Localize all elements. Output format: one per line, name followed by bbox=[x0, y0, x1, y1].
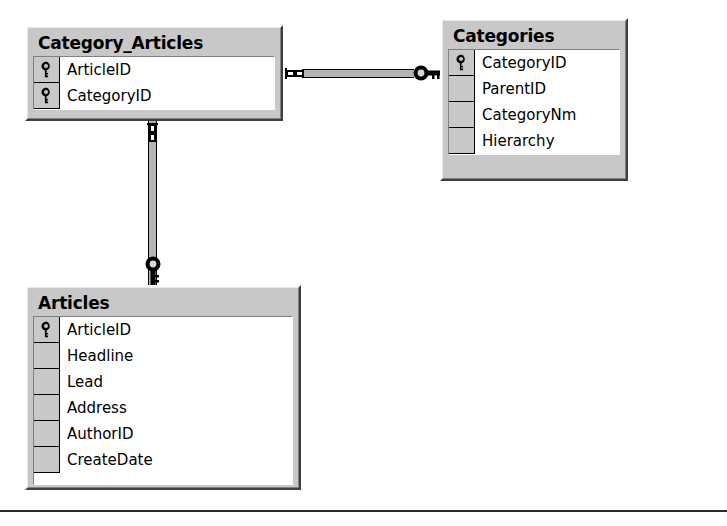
field-row[interactable]: CategoryID bbox=[34, 83, 274, 109]
field-row[interactable]: AuthorID bbox=[34, 421, 292, 447]
field-gutter-empty bbox=[34, 421, 60, 447]
field-row[interactable]: Lead bbox=[34, 369, 292, 395]
entity-category-articles[interactable]: Category_Articles ArticleID bbox=[25, 25, 283, 121]
entity-articles[interactable]: Articles ArticleID Headline bbox=[25, 285, 301, 490]
field-row[interactable]: Address bbox=[34, 395, 292, 421]
field-row[interactable]: Headline bbox=[34, 343, 292, 369]
field-label: CreateDate bbox=[60, 447, 292, 473]
entity-title-categories: Categories bbox=[443, 21, 625, 49]
entity-title-category-articles: Category_Articles bbox=[28, 28, 280, 56]
field-row[interactable]: CategoryID bbox=[449, 50, 619, 76]
field-gutter-empty bbox=[34, 369, 60, 395]
field-label: Hierarchy bbox=[475, 128, 619, 154]
field-row[interactable]: Hierarchy bbox=[449, 128, 619, 154]
field-gutter-empty bbox=[449, 102, 475, 128]
entity-category-articles-inner: Category_Articles ArticleID bbox=[27, 27, 281, 119]
key-icon-articles-endpoint bbox=[142, 255, 164, 287]
key-icon bbox=[449, 50, 475, 76]
field-label: CategoryNm bbox=[475, 102, 619, 128]
field-row[interactable]: CategoryNm bbox=[449, 102, 619, 128]
entity-categories-inner: Categories CategoryID ParentID bbox=[442, 20, 626, 179]
entity-fields-categories: CategoryID ParentID CategoryNm Hierarchy bbox=[448, 49, 620, 155]
field-row[interactable]: ParentID bbox=[449, 76, 619, 102]
key-icon bbox=[34, 57, 60, 83]
field-gutter-empty bbox=[34, 395, 60, 421]
field-label: ArticleID bbox=[60, 57, 274, 83]
entity-title-articles: Articles bbox=[28, 288, 298, 316]
relationship-line-category-articles-categories[interactable] bbox=[302, 69, 414, 78]
field-gutter-empty bbox=[449, 128, 475, 154]
bottom-divider bbox=[0, 510, 727, 512]
field-row[interactable]: CreateDate bbox=[34, 447, 292, 473]
infinity-icon-category-articles-articles bbox=[143, 123, 162, 147]
entity-fields-articles: ArticleID Headline Lead Address AuthorID bbox=[33, 316, 293, 485]
field-row[interactable]: ArticleID bbox=[34, 57, 274, 83]
key-icon bbox=[34, 317, 60, 343]
entity-articles-inner: Articles ArticleID Headline bbox=[27, 287, 299, 488]
key-icon bbox=[34, 83, 60, 109]
field-label: AuthorID bbox=[60, 421, 292, 447]
field-label: Address bbox=[60, 395, 292, 421]
key-icon-categories-endpoint bbox=[412, 62, 442, 84]
fields-bottom-padding bbox=[34, 473, 292, 484]
entity-fields-category-articles: ArticleID CategoryID bbox=[33, 56, 275, 110]
infinity-icon-category-articles-categories bbox=[285, 64, 307, 83]
field-label: Headline bbox=[60, 343, 292, 369]
entity-categories[interactable]: Categories CategoryID ParentID bbox=[440, 18, 628, 181]
relationship-diagram-canvas: Category_Articles ArticleID bbox=[0, 0, 727, 526]
field-label: ParentID bbox=[475, 76, 619, 102]
field-gutter-empty bbox=[34, 447, 60, 473]
field-label: CategoryID bbox=[475, 50, 619, 76]
field-label: Lead bbox=[60, 369, 292, 395]
field-label: CategoryID bbox=[60, 83, 274, 109]
field-label: ArticleID bbox=[60, 317, 292, 343]
field-row[interactable]: ArticleID bbox=[34, 317, 292, 343]
field-gutter-empty bbox=[34, 343, 60, 369]
field-gutter-empty bbox=[449, 76, 475, 102]
